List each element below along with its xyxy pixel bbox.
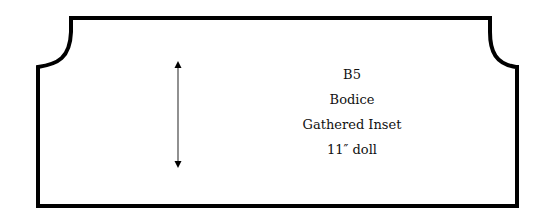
piece-name: Bodice (277, 87, 427, 112)
piece-code: B5 (277, 62, 427, 87)
piece-size: 11″ doll (277, 137, 427, 162)
pattern-labels: B5 Bodice Gathered Inset 11″ doll (277, 62, 427, 162)
pattern-diagram (0, 0, 552, 219)
grainline-arrow-icon (175, 61, 182, 168)
piece-style: Gathered Inset (277, 112, 427, 137)
